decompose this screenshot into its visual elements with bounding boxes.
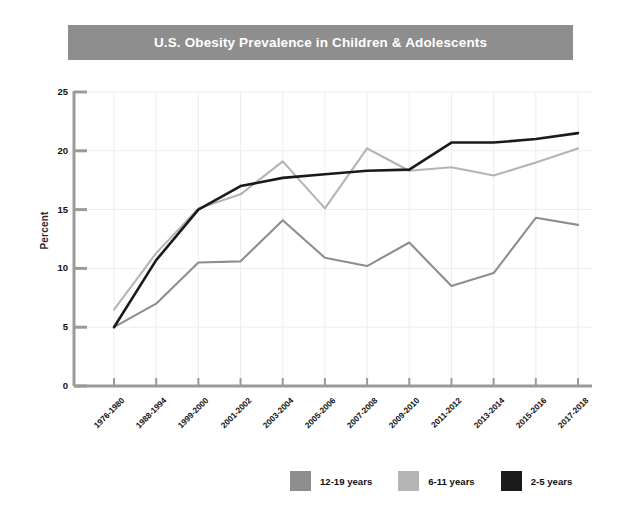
chart-legend: 12-19 years6-11 years2-5 years	[290, 470, 598, 492]
x-tick-label: 2007-2008	[302, 396, 379, 473]
legend-swatch-icon	[290, 471, 311, 491]
legend-label: 12-19 years	[320, 476, 372, 487]
x-tick-label: 2011-2012	[387, 396, 464, 473]
legend-swatch-icon	[398, 471, 419, 491]
legend-label: 6-11 years	[428, 476, 474, 487]
x-tick-label: 2017-2018	[513, 396, 590, 473]
x-tick-label: 1976-1980	[49, 396, 126, 473]
chart-plot-area: Percent 0510152025 1976-19801988-1994199…	[0, 0, 625, 517]
legend-item[interactable]: 2-5 years	[501, 471, 573, 491]
x-tick-label: 2013-2014	[429, 396, 506, 473]
x-tick-label: 2015-2016	[471, 396, 548, 473]
x-tick-label: 2009-2010	[345, 396, 422, 473]
x-tick-label: 1999-2000	[134, 396, 211, 473]
legend-label: 2-5 years	[531, 476, 573, 487]
legend-swatch-icon	[501, 471, 522, 491]
x-tick-label: 2001-2002	[176, 396, 253, 473]
x-tick-label: 2003-2004	[218, 396, 295, 473]
chart-page: U.S. Obesity Prevalence in Children & Ad…	[0, 0, 625, 517]
x-tick-label: 2005-2006	[260, 396, 337, 473]
legend-item[interactable]: 6-11 years	[398, 471, 474, 491]
legend-item[interactable]: 12-19 years	[290, 471, 372, 491]
x-tick-label: 1988-1994	[91, 396, 168, 473]
x-tick-labels: 1976-19801988-19941999-20002001-20022003…	[0, 0, 625, 517]
